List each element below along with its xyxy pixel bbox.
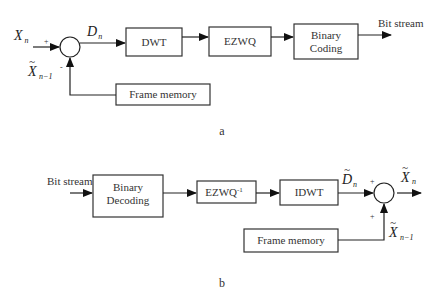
svg-text:Binary: Binary bbox=[113, 181, 143, 193]
svg-text:~: ~ bbox=[390, 216, 396, 228]
decoder-diff-label: D ~ n bbox=[341, 163, 357, 189]
decoder-input-label: Bit stream bbox=[47, 175, 93, 187]
encoder-diagram: Xn + - X ~ n−1 Dn DWT EZWQ bbox=[13, 17, 424, 138]
svg-text:n−1: n−1 bbox=[39, 72, 52, 81]
encoder-feedback-label: X ~ n−1 bbox=[27, 55, 52, 81]
encoder-diff-label: Dn bbox=[86, 24, 102, 41]
encoder-caption: a bbox=[219, 124, 225, 138]
svg-text:n−1: n−1 bbox=[400, 233, 413, 242]
svg-text:~: ~ bbox=[344, 163, 350, 175]
decoder-feedback-label: X ~ n−1 bbox=[388, 216, 413, 242]
encoder-input-label: Xn bbox=[13, 28, 29, 45]
encoder-frame-memory-block: Frame memory bbox=[116, 84, 210, 105]
decoder-frame-memory-block: Frame memory bbox=[244, 229, 338, 252]
decoder-plus-sign-bottom: + bbox=[370, 212, 375, 221]
svg-text:n: n bbox=[353, 180, 357, 189]
svg-text:Decoding: Decoding bbox=[107, 194, 150, 206]
decoder-feedback-arrow bbox=[338, 204, 384, 240]
svg-text:n: n bbox=[412, 177, 416, 186]
svg-text:IDWT: IDWT bbox=[295, 186, 324, 198]
svg-text:~: ~ bbox=[402, 161, 408, 173]
decoder-diagram: Bit stream Binary Decoding EZWQ-1 IDWT D… bbox=[47, 161, 421, 290]
decoder-plus-sign-top: + bbox=[370, 177, 375, 186]
encoder-output-label: Bit stream bbox=[378, 17, 424, 29]
encoder-summing-junction bbox=[60, 37, 80, 57]
encoder-plus-sign: + bbox=[44, 37, 49, 46]
decoder-summing-junction bbox=[374, 183, 394, 203]
binary-coding-block: Binary Coding bbox=[294, 24, 358, 59]
svg-text:DWT: DWT bbox=[141, 36, 166, 48]
svg-text:EZWQ: EZWQ bbox=[224, 35, 256, 47]
svg-text:Binary: Binary bbox=[311, 29, 341, 41]
ezwq-block: EZWQ bbox=[209, 27, 271, 56]
encoder-minus-sign: - bbox=[60, 63, 63, 72]
svg-text:Frame memory: Frame memory bbox=[129, 88, 197, 100]
svg-text:Coding: Coding bbox=[310, 42, 343, 54]
dwt-block: DWT bbox=[126, 28, 182, 56]
binary-decoding-block: Binary Decoding bbox=[93, 175, 163, 217]
decoder-caption: b bbox=[219, 276, 225, 290]
codec-block-diagram: Xn + - X ~ n−1 Dn DWT EZWQ bbox=[0, 0, 442, 302]
svg-text:~: ~ bbox=[29, 55, 35, 67]
ezwq-inverse-block: EZWQ-1 bbox=[197, 181, 256, 203]
encoder-feedback-arrow bbox=[70, 58, 116, 95]
svg-text:Frame memory: Frame memory bbox=[257, 234, 325, 246]
idwt-block: IDWT bbox=[280, 180, 338, 205]
decoder-output-label: X ~ n bbox=[400, 161, 416, 186]
